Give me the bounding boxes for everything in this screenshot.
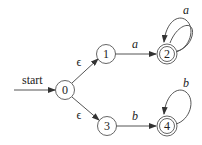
edge-0-1: ϵ — [72, 55, 98, 83]
edge-label-0-3: ϵ — [77, 108, 82, 122]
state-2: 2 — [157, 44, 177, 64]
edge-0-3: ϵ — [72, 97, 99, 122]
state-0: 0 — [56, 81, 75, 100]
start-label: start — [22, 73, 43, 87]
nfa-diagram: start ϵ ϵ a a b b 0 1 2 3 — [0, 0, 202, 145]
state-label-3: 3 — [104, 119, 110, 133]
state-label-2: 2 — [164, 47, 170, 61]
edge-label-4-4: b — [183, 76, 189, 90]
state-label-0: 0 — [62, 83, 68, 97]
state-4: 4 — [157, 116, 177, 136]
state-3: 3 — [98, 117, 117, 136]
state-1: 1 — [97, 45, 116, 64]
state-label-4: 4 — [164, 119, 170, 133]
edge-3-4: b — [116, 109, 156, 126]
start-arrow: start — [14, 73, 55, 90]
edge-1-2: a — [115, 37, 156, 54]
edge-label-0-1: ϵ — [77, 55, 82, 69]
edge-label-2-2: a — [183, 3, 189, 17]
edge-label-3-4: b — [132, 109, 138, 123]
state-label-1: 1 — [103, 47, 109, 61]
edge-label-1-2: a — [132, 37, 138, 51]
